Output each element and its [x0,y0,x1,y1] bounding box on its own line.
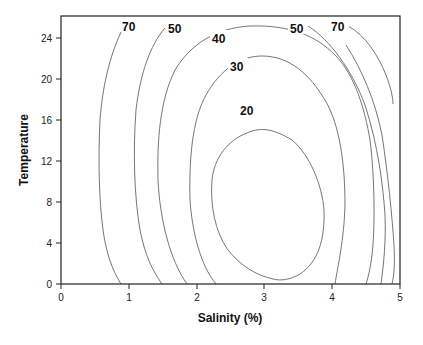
contour-20 [212,129,325,279]
y-tick-12: 12 [41,156,53,167]
contour-label-50-left: 50 [168,22,182,36]
x-tick-5: 5 [397,292,403,303]
contour-labels: 70 50 40 30 20 50 70 [120,18,349,118]
y-tick-8: 8 [46,197,52,208]
y-tick-0: 0 [46,279,52,290]
contour-70-right-b [346,45,394,284]
contour-70-right [348,26,393,104]
contour-label-30: 30 [230,60,244,74]
x-tick-labels: 0 1 2 3 4 5 [58,292,403,303]
y-axis [56,38,61,284]
x-tick-4: 4 [329,292,335,303]
x-axis-title: Salinity (%) [198,311,263,325]
contour-50-right [308,26,385,284]
contour-label-50-right: 50 [290,22,304,36]
y-tick-4: 4 [46,238,52,249]
y-tick-24: 24 [41,33,53,44]
contour-label-20: 20 [240,104,254,118]
contour-70-left [99,28,123,284]
x-tick-2: 2 [194,292,200,303]
x-axis [61,284,400,289]
contour-label-70-left: 70 [122,20,136,34]
y-tick-20: 20 [41,74,53,85]
x-tick-1: 1 [126,292,132,303]
y-tick-labels: 0 4 8 12 16 20 24 [41,33,53,290]
y-axis-title: Temperature [17,114,31,186]
x-tick-3: 3 [261,292,267,303]
contour-chart: 70 50 40 30 20 50 70 0 1 2 3 4 5 [0,0,423,345]
contour-30 [190,56,345,284]
contour-label-70-right: 70 [331,20,345,34]
contour-50-left [134,28,165,284]
contour-label-40: 40 [212,32,226,46]
x-tick-0: 0 [58,292,64,303]
y-tick-16: 16 [41,115,53,126]
